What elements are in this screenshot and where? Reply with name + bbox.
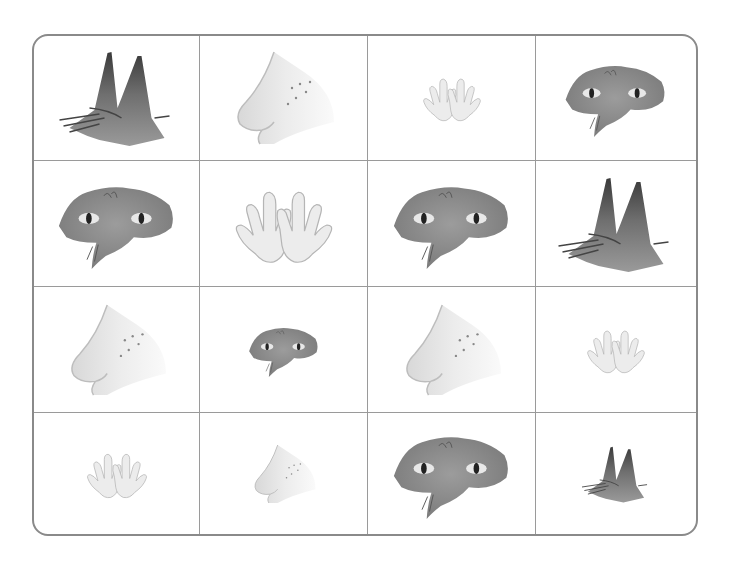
grid-cell-hands[interactable] — [368, 36, 536, 161]
hands-illustration — [575, 325, 657, 375]
eyes-illustration — [55, 179, 179, 269]
hands-illustration — [216, 182, 352, 266]
grid-cell-eyes[interactable] — [368, 161, 536, 287]
nose-illustration — [234, 52, 334, 144]
grid-cell-hands[interactable] — [200, 161, 368, 287]
nose-illustration — [403, 304, 501, 396]
grid-cell-ears[interactable] — [536, 413, 696, 534]
grid-cell-eyes[interactable] — [536, 36, 696, 161]
ears-illustration — [559, 174, 674, 274]
grid-cell-eyes[interactable] — [34, 161, 200, 287]
grid-cell-ears[interactable] — [536, 161, 696, 287]
grid-cell-eyes[interactable] — [200, 287, 368, 413]
grid-cell-nose[interactable] — [34, 287, 200, 413]
grid-cell-ears[interactable] — [34, 36, 200, 161]
eyes-illustration — [561, 59, 671, 137]
ears-illustration — [59, 48, 174, 148]
grid-cell-hands[interactable] — [34, 413, 200, 534]
eyes-illustration — [390, 429, 514, 519]
grid-cell-hands[interactable] — [536, 287, 696, 413]
hands-illustration — [76, 448, 158, 500]
grid-cell-eyes[interactable] — [368, 413, 536, 534]
ears-illustration — [582, 444, 650, 504]
grid-cell-nose[interactable] — [200, 413, 368, 534]
hands-illustration — [411, 73, 493, 123]
grid-cell-nose[interactable] — [200, 36, 368, 161]
eyes-illustration — [246, 323, 322, 377]
picture-grid — [34, 36, 696, 534]
nose-illustration — [68, 304, 166, 396]
nose-illustration — [252, 445, 316, 503]
grid-cell-nose[interactable] — [368, 287, 536, 413]
eyes-illustration — [390, 179, 514, 269]
worksheet-board — [32, 34, 698, 536]
